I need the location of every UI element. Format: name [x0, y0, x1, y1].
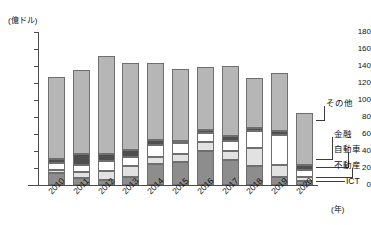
y-tick-label: 180	[341, 28, 371, 36]
bar-segment-2018-金融	[246, 128, 263, 131]
bar-segment-2012-その他	[98, 56, 115, 155]
y-tick-label: 80	[341, 113, 371, 121]
legend-leader-line	[316, 181, 345, 182]
bar-segment-2017-自動車	[222, 141, 239, 151]
y-tick-label: 140	[341, 62, 371, 70]
bar-segment-2019-金融	[271, 131, 288, 134]
bar-2014	[147, 32, 164, 185]
bar-segment-2010-金融	[48, 159, 65, 163]
bar-2011	[73, 32, 90, 185]
y-tick-mark	[34, 117, 39, 118]
y-tick-mark	[34, 49, 39, 50]
bar-2019	[271, 32, 288, 185]
bar-2010	[48, 32, 65, 185]
legend-leader-line	[316, 159, 333, 160]
bar-2015	[172, 32, 189, 185]
legend-label-ICT: ICT	[346, 176, 360, 186]
bar-segment-2014-自動車	[147, 145, 164, 157]
y-tick-label: 160	[341, 45, 371, 53]
y-tick-label: 120	[341, 79, 371, 87]
bar-segment-2013-自動車	[122, 157, 139, 166]
bar-segment-2016-金融	[197, 130, 214, 133]
legend-leader-line	[324, 106, 325, 120]
y-tick-mark	[34, 185, 39, 186]
bar-segment-2017-その他	[222, 66, 239, 136]
bar-segment-2019-その他	[271, 73, 288, 132]
legend-leader-line	[332, 137, 333, 159]
bar-segment-2015-自動車	[172, 143, 189, 154]
bar-segment-2020-その他	[296, 113, 313, 165]
bar-segment-2014-不動産	[147, 157, 164, 164]
y-tick-mark	[34, 83, 39, 84]
bar-segment-2011-その他	[73, 70, 90, 153]
plot-area: 020406080100120140160180 201020112012201…	[0, 0, 371, 225]
bar-2012	[98, 32, 115, 185]
y-tick-mark	[34, 66, 39, 67]
bar-2018	[246, 32, 263, 185]
bar-2013	[122, 32, 139, 185]
legend-label-金融: 金融	[334, 127, 352, 139]
bar-segment-2016-その他	[197, 67, 214, 130]
x-axis-unit-label: (年)	[331, 203, 344, 214]
bar-segment-2015-金融	[172, 141, 189, 144]
bar-segment-2015-その他	[172, 69, 189, 141]
bar-segment-2016-自動車	[197, 133, 214, 142]
bar-segment-2017-不動産	[222, 151, 239, 160]
bar-segment-2012-金融	[98, 154, 115, 161]
y-axis-line	[38, 32, 39, 185]
bar-segment-2019-自動車	[271, 135, 288, 166]
y-tick-mark	[34, 100, 39, 101]
bar-segment-2014-金融	[147, 140, 164, 145]
bar-segment-2011-金融	[73, 154, 90, 166]
bar-segment-2020-金融	[296, 165, 313, 170]
bar-segment-2010-自動車	[48, 163, 65, 170]
bar-segment-2018-不動産	[246, 148, 263, 167]
bar-2020	[296, 32, 313, 185]
bar-2016	[197, 32, 214, 185]
bar-segment-2016-不動産	[197, 142, 214, 151]
y-tick-mark	[34, 151, 39, 152]
legend-label-不動産: 不動産	[334, 158, 361, 170]
bar-segment-2013-その他	[122, 63, 139, 150]
y-tick-mark	[34, 32, 39, 33]
bar-segment-2015-不動産	[172, 154, 189, 162]
bar-segment-2014-その他	[147, 63, 164, 140]
chart-figure: (億ドル) 020406080100120140160180 201020112…	[0, 0, 371, 225]
legend-leader-line	[316, 120, 325, 121]
y-tick-mark	[34, 168, 39, 169]
bar-segment-2017-金融	[222, 136, 239, 141]
bar-segment-2010-その他	[48, 77, 65, 159]
bar-segment-2013-金融	[122, 150, 139, 157]
y-tick-mark	[34, 134, 39, 135]
bar-segment-2018-自動車	[246, 131, 263, 148]
bar-2017	[222, 32, 239, 185]
bar-segment-2018-その他	[246, 78, 263, 128]
legend-label-その他: その他	[326, 96, 353, 108]
